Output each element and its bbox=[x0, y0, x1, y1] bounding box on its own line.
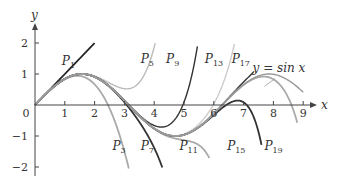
y-tick-label: 1 bbox=[21, 68, 28, 81]
x-tick-label: 6 bbox=[210, 107, 217, 120]
x-tick-label: 5 bbox=[181, 107, 188, 120]
curve-label-p1: P1 bbox=[61, 54, 75, 70]
x-tick-label: 7 bbox=[240, 107, 247, 120]
curve-label-p17: P17 bbox=[231, 52, 250, 68]
y-axis-label: y bbox=[30, 8, 38, 22]
x-axis-arrow-icon bbox=[310, 102, 317, 108]
curve-p5 bbox=[35, 43, 155, 105]
x-tick-label: 8 bbox=[270, 107, 277, 120]
y-tick-label: 2 bbox=[21, 37, 28, 50]
x-tick-label: 0 bbox=[23, 107, 30, 120]
curve-p17 bbox=[35, 71, 254, 136]
curve-label-p9: P9 bbox=[165, 52, 179, 68]
curve-label-p3: P3 bbox=[111, 139, 125, 155]
x-tick-label: 4 bbox=[151, 107, 158, 120]
curve-label-p15: P15 bbox=[226, 139, 245, 155]
curve-label-sin-x: y = sin x bbox=[252, 61, 306, 75]
x-tick-label: 3 bbox=[121, 107, 128, 120]
sin-label-pointer bbox=[264, 79, 274, 87]
x-tick-label: 2 bbox=[91, 107, 98, 120]
curve-p15 bbox=[35, 74, 261, 145]
taylor-polynomials-chart: x y 0123456789−2−112 P1P3P5P7P9P11P13P15… bbox=[0, 0, 338, 188]
y-tick-label: −2 bbox=[12, 161, 28, 174]
x-axis-label: x bbox=[321, 98, 328, 112]
x-tick-label: 1 bbox=[61, 107, 68, 120]
x-tick-label: 9 bbox=[300, 107, 307, 120]
y-axis-arrow-icon bbox=[32, 23, 38, 30]
curve-label-p19: P19 bbox=[263, 139, 282, 155]
y-tick-label: −1 bbox=[12, 130, 28, 143]
curve-label-p13: P13 bbox=[204, 52, 223, 68]
